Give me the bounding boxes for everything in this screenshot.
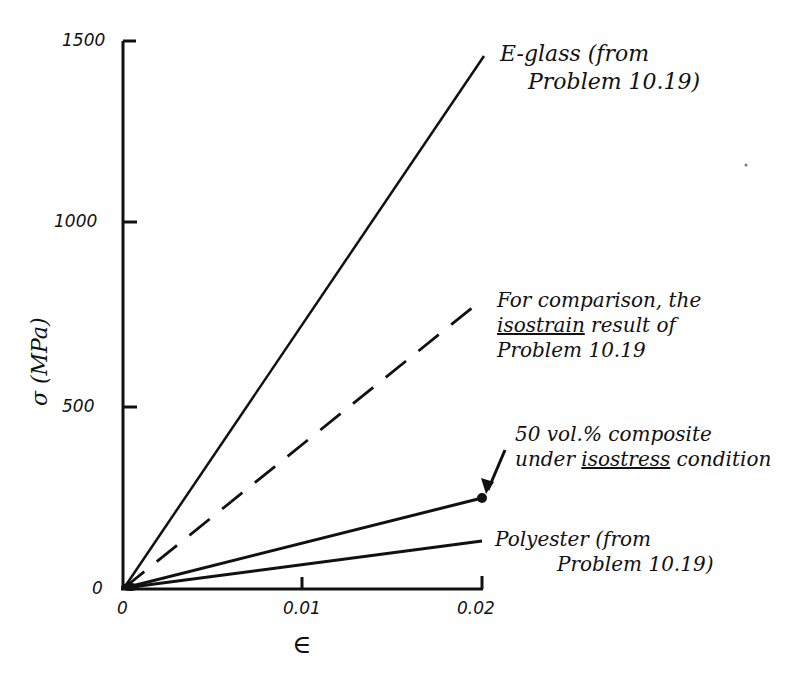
origin-marker [121,583,139,591]
y-tick-label-1000: 1000 [54,211,97,231]
annotation-polyester: Polyester (from Problem 10.19) [495,527,713,577]
y-axis-title: σ (MPa) [26,302,54,422]
annotation-isostrain-line1: For comparison, the [497,288,701,313]
annotation-isostrain-line2: isostrain result of [497,313,701,338]
y-tick-label-1500: 1500 [62,30,105,50]
annotation-polyester-line1: Polyester (from [495,527,713,552]
annotation-isostress-line1: 50 vol.% composite [515,422,771,447]
x-axis-title: ∈ [292,628,311,661]
y-tick-label-0: 0 [92,578,103,598]
series-e-glass [124,56,484,588]
series-isostress [124,498,482,588]
x-tick-label-0.02: 0.02 [457,598,495,618]
x-tick-label-0.01: 0.01 [283,598,321,618]
y-tick-label-500: 500 [62,396,94,416]
isostress-endpoint-marker [477,493,487,503]
annotation-polyester-line2: Problem 10.19) [495,552,713,577]
annotation-isostress-line2: under isostress condition [515,447,771,472]
series-isostrain [124,299,483,588]
annotation-e-glass-line2: Problem 10.19) [500,68,700,96]
annotation-isostrain: For comparison, the isostrain result of … [497,288,701,363]
x-tick-label-0: 0 [117,598,128,618]
isostrain-underlined: isostrain [497,313,585,337]
annotation-isostrain-line3: Problem 10.19 [497,338,701,363]
stray-mark [745,164,748,167]
annotation-e-glass: E-glass (from Problem 10.19) [500,40,700,95]
annotation-isostress: 50 vol.% composite under isostress condi… [515,422,771,472]
annotation-e-glass-line1: E-glass (from [500,40,700,68]
isostress-underlined: isostress [581,447,670,471]
